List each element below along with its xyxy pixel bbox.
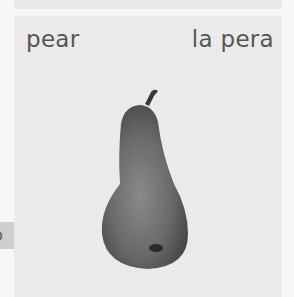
spanish-word: la pera [192, 26, 274, 52]
previous-card[interactable] [14, 0, 282, 9]
side-tab-text: o [0, 224, 3, 245]
pear-stem-icon [145, 90, 158, 106]
pear-image [88, 84, 204, 280]
previous-card-tab[interactable]: o [0, 222, 14, 249]
english-word: pear [26, 26, 80, 52]
